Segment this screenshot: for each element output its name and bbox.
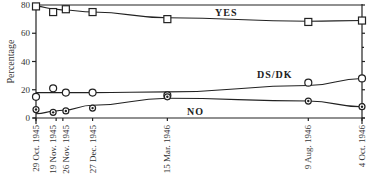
marker-ds-dk: [62, 89, 69, 96]
marker-no-dot: [91, 107, 93, 109]
x-tick-label: 27 Dec. 1945: [88, 125, 98, 174]
marker-no-dot: [65, 110, 67, 112]
marker-ds-dk: [305, 79, 312, 86]
marker-no-dot: [52, 111, 54, 113]
marker-yes: [164, 16, 171, 23]
label-no: NO: [187, 106, 204, 117]
marker-yes: [359, 17, 366, 24]
x-tick-label: 29 Oct. 1945: [31, 125, 41, 172]
marker-ds-dk: [50, 85, 57, 92]
series-lines: [36, 6, 362, 113]
x-tick-label: 26 Nov. 1945: [61, 125, 71, 174]
y-tick-label: 40: [21, 57, 31, 67]
y-tick-label: 60: [21, 28, 31, 38]
y-tick-label: 20: [21, 85, 31, 95]
marker-yes: [62, 6, 69, 13]
label-ds-dk: DS/DK: [257, 69, 293, 80]
y-tick-label: 0: [26, 113, 31, 123]
label-yes: YES: [215, 7, 237, 18]
x-tick-label: 19 Nov. 1945: [48, 125, 58, 174]
marker-no-dot: [361, 106, 363, 108]
marker-ds-dk: [89, 89, 96, 96]
line-chart: 020406080Percentage29 Oct. 194519 Nov. 1…: [0, 0, 370, 176]
marker-yes: [33, 3, 40, 10]
axes: 020406080Percentage29 Oct. 194519 Nov. 1…: [5, 0, 367, 174]
marker-ds-dk: [359, 75, 366, 82]
marker-yes: [305, 18, 312, 25]
marker-no-dot: [166, 96, 168, 98]
marker-yes: [89, 9, 96, 16]
x-tick-label: 15 Mar. 1946: [162, 125, 172, 174]
series-line-ds-dk: [36, 78, 362, 92]
marker-yes: [50, 9, 57, 16]
x-tick-label: 4 Oct. 1946: [357, 125, 367, 168]
marker-ds-dk: [33, 93, 40, 100]
y-axis-title: Percentage: [5, 39, 16, 83]
marker-no-dot: [307, 100, 309, 102]
marker-no-dot: [35, 108, 37, 110]
series-line-yes: [36, 6, 362, 21]
x-tick-label: 9 Aug. 1946: [303, 125, 313, 170]
y-tick-label: 80: [21, 0, 31, 10]
